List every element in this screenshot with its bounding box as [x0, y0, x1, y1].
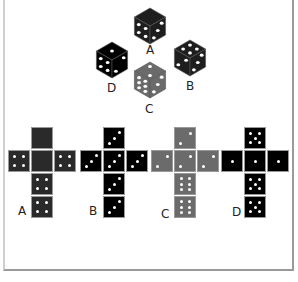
pip	[166, 155, 169, 158]
cube-label: C	[145, 103, 153, 115]
pip	[231, 160, 234, 163]
pip	[36, 201, 39, 204]
pip	[249, 141, 252, 144]
cube-b	[168, 36, 212, 80]
net-d-face-bottom1	[244, 173, 266, 195]
cube-label: B	[186, 80, 194, 92]
pip	[118, 177, 121, 180]
pip	[254, 160, 257, 163]
pip	[95, 154, 98, 157]
pip	[108, 165, 111, 168]
pip	[45, 201, 48, 204]
pip	[118, 131, 121, 134]
pip	[68, 155, 71, 158]
pip	[180, 200, 183, 203]
net-c-face-right	[197, 150, 219, 172]
net-c-face-top	[174, 127, 196, 149]
pip	[249, 187, 252, 190]
net-b-face-center	[103, 150, 125, 172]
pip	[180, 211, 183, 214]
net-label: A	[18, 205, 26, 217]
pip	[254, 137, 257, 140]
pip	[189, 132, 192, 135]
pip	[59, 164, 62, 167]
pip	[118, 200, 121, 203]
pip	[188, 211, 191, 214]
net-label: D	[232, 206, 241, 218]
net-b-face-left	[80, 150, 102, 172]
pip	[254, 206, 257, 209]
pip	[108, 142, 111, 145]
pip	[136, 160, 139, 163]
pip	[258, 210, 261, 213]
cube-c	[128, 58, 172, 102]
net-c-face-bottom1	[174, 173, 196, 195]
pip	[113, 206, 116, 209]
pip	[179, 165, 182, 168]
pip	[113, 183, 116, 186]
net-d-face-top	[244, 127, 266, 149]
pip	[258, 141, 261, 144]
net-c-face-left	[151, 150, 173, 172]
pip	[141, 154, 144, 157]
net-c-face-bottom2	[174, 196, 196, 218]
pip	[249, 178, 252, 181]
pip	[156, 165, 159, 168]
pip	[258, 201, 261, 204]
net-b-face-right	[126, 150, 148, 172]
pip	[188, 188, 191, 191]
net-a-face-left	[8, 150, 30, 172]
pip	[68, 164, 71, 167]
pip	[108, 211, 111, 214]
net-a-face-center	[31, 150, 53, 172]
net-label: C	[161, 208, 169, 220]
pip	[36, 178, 39, 181]
pip	[85, 165, 88, 168]
net-a-face-bottom1	[31, 173, 53, 195]
pip	[113, 160, 116, 163]
pip	[45, 187, 48, 190]
pip	[277, 160, 280, 163]
pip	[131, 165, 134, 168]
pip	[249, 210, 252, 213]
pip	[258, 132, 261, 135]
pip	[90, 160, 93, 163]
pip	[113, 137, 116, 140]
pip	[202, 165, 205, 168]
pip	[258, 178, 261, 181]
pip	[45, 210, 48, 213]
pip	[212, 155, 215, 158]
net-b-face-top	[103, 127, 125, 149]
pip	[108, 188, 111, 191]
net-a-face-bottom2	[31, 196, 53, 218]
cube-label: D	[107, 82, 116, 94]
pip	[22, 164, 25, 167]
pip	[59, 155, 62, 158]
net-label: B	[89, 205, 97, 217]
pip	[22, 155, 25, 158]
pip	[13, 164, 16, 167]
pip	[258, 187, 261, 190]
pip	[180, 188, 183, 191]
pip	[189, 155, 192, 158]
pip	[249, 132, 252, 135]
pip	[13, 155, 16, 158]
pip	[180, 183, 183, 186]
pip	[188, 183, 191, 186]
net-c-face-center	[174, 150, 196, 172]
pip	[188, 206, 191, 209]
cube-label: A	[146, 44, 154, 56]
net-a-face-right	[54, 150, 76, 172]
net-b-face-bottom2	[103, 196, 125, 218]
net-d-face-left	[221, 150, 243, 172]
net-d-face-bottom2	[244, 196, 266, 218]
net-d-face-center	[244, 150, 266, 172]
pip	[254, 183, 257, 186]
net-d-face-right	[267, 150, 289, 172]
net-a-face-top	[31, 127, 53, 149]
net-b-face-bottom1	[103, 173, 125, 195]
pip	[36, 210, 39, 213]
pip	[36, 187, 39, 190]
pip	[188, 177, 191, 180]
pip	[118, 154, 121, 157]
